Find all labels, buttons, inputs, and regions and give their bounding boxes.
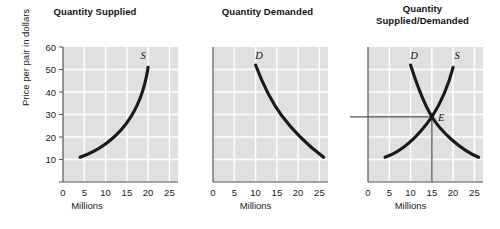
equilibrium-label: E (437, 112, 445, 123)
x-tick-15: 15 (272, 187, 283, 198)
x-tick-15: 15 (122, 187, 133, 198)
x-tick-0: 0 (365, 187, 370, 198)
x-tick-5: 5 (387, 187, 392, 198)
y-tick-60: 60 (45, 42, 56, 53)
y-axis-tick-labels: 60 50 40 30 20 10 (45, 42, 56, 166)
supply-demand-figure: Quantity Supplied Price per pair in doll… (0, 0, 500, 229)
y-tick-10: 10 (45, 154, 56, 165)
x-tick-20: 20 (448, 187, 459, 198)
x-axis-tick-labels: 0 5 10 15 20 25 (365, 187, 479, 198)
x-tick-15: 15 (427, 187, 438, 198)
x-tick-10: 10 (100, 187, 111, 198)
x-tick-20: 20 (293, 187, 304, 198)
plot-area-quantity-supplied-demanded: 0 5 10 15 20 25 D S E (345, 0, 500, 200)
x-tick-25: 25 (469, 187, 480, 198)
y-tick-40: 40 (45, 87, 56, 98)
x-axis-label: Millions (333, 200, 488, 211)
plot-area-quantity-supplied: 60 50 40 30 20 10 0 5 10 15 20 25 S (0, 0, 190, 200)
demand-curve-label: D (409, 50, 418, 61)
x-tick-5: 5 (232, 187, 237, 198)
x-tick-0: 0 (60, 187, 65, 198)
panel-quantity-supplied-demanded: Quantity Supplied/Demanded (345, 0, 500, 229)
x-tick-25: 25 (314, 187, 325, 198)
supply-curve-label: S (140, 50, 146, 61)
x-tick-5: 5 (82, 187, 87, 198)
x-axis-label: Millions (178, 200, 333, 211)
x-tick-10: 10 (405, 187, 416, 198)
x-axis-tick-labels: 0 5 10 15 20 25 (210, 187, 324, 198)
x-axis-label: Millions (0, 200, 182, 211)
demand-curve-label: D (254, 50, 263, 61)
x-tick-10: 10 (250, 187, 261, 198)
x-tick-0: 0 (210, 187, 215, 198)
x-tick-20: 20 (143, 187, 154, 198)
x-axis-tick-labels: 0 5 10 15 20 25 (60, 187, 174, 198)
x-tick-25: 25 (164, 187, 175, 198)
supply-curve-label: S (454, 50, 460, 61)
y-tick-50: 50 (45, 64, 56, 75)
y-tick-30: 30 (45, 109, 56, 120)
plot-area-quantity-demanded: 0 5 10 15 20 25 D (190, 0, 345, 200)
panel-quantity-demanded: Quantity Demanded 0 5 (190, 0, 345, 229)
y-tick-20: 20 (45, 132, 56, 143)
panel-quantity-supplied: Quantity Supplied Price per pair in doll… (0, 0, 190, 229)
